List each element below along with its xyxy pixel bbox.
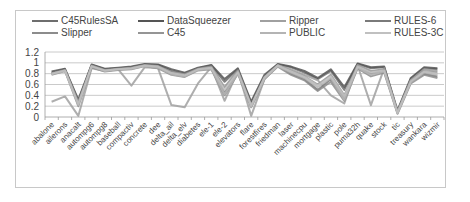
x-tick-label: stock [369, 119, 389, 139]
y-tick-label: 0.2 [25, 101, 39, 112]
line-chart: 00.20.40.60.811.2abaloneaileronsanacalta… [0, 0, 470, 202]
y-tick-label: 0.4 [25, 90, 39, 101]
y-tick-label: 0.6 [25, 79, 39, 90]
y-tick-label: 0.8 [25, 68, 39, 79]
y-tick-label: 0 [33, 112, 39, 123]
y-tick-label: 1.2 [25, 47, 39, 58]
y-tick-label: 1 [33, 57, 39, 68]
